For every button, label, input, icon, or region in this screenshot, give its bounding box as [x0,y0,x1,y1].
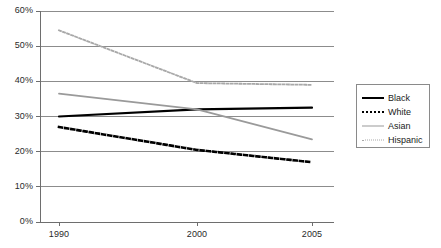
x-axis-tick-label: 2005 [289,229,335,239]
legend-item-label: Hispanic [388,135,423,145]
legend-line-swatch-icon [362,107,384,117]
x-axis-tick-marks [59,222,312,226]
line-chart: 0%10%20%30%40%50%60% 199020002005 BlackW… [0,0,441,248]
legend-line-swatch-icon [362,121,384,131]
x-axis-tick-label: 1990 [36,229,82,239]
y-axis-tick-label: 50% [3,40,33,50]
series-line-hispanic [59,30,312,85]
y-axis-tick-label: 60% [3,5,33,15]
legend-item-black[interactable]: Black [362,91,410,105]
y-axis-tick-label: 40% [3,75,33,85]
legend-item-label: Asian [388,121,411,131]
chart-legend: BlackWhiteAsianHispanic [356,84,430,148]
series-line-white [59,127,312,162]
legend-item-hispanic[interactable]: Hispanic [362,133,423,147]
y-axis-tick-marks [36,11,40,222]
y-axis-tick-label: 0% [3,216,33,226]
legend-item-label: Black [388,93,410,103]
y-axis-tick-label: 20% [3,146,33,156]
legend-line-swatch-icon [362,93,384,103]
legend-item-asian[interactable]: Asian [362,119,411,133]
legend-line-swatch-icon [362,135,384,145]
legend-item-white[interactable]: White [362,105,411,119]
y-axis-tick-label: 30% [3,111,33,121]
x-axis-tick-label: 2000 [174,229,220,239]
y-axis-tick-label: 10% [3,181,33,191]
legend-item-label: White [388,107,411,117]
gridlines [40,11,334,222]
data-series [59,30,312,162]
